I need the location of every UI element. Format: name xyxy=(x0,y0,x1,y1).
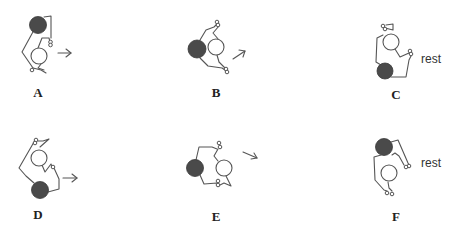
hand-icon xyxy=(383,27,387,31)
panel-e-arrow-down-right-icon xyxy=(243,152,257,159)
panel-label-b: B xyxy=(212,86,221,99)
hand-icon xyxy=(409,52,413,56)
panel-label-a: A xyxy=(33,86,42,99)
panel-d-figure xyxy=(19,138,59,198)
panel-c-figure xyxy=(376,24,413,79)
hand-icon xyxy=(218,145,222,149)
panel-b-figure xyxy=(188,20,229,74)
lead-dancer-dark-icon xyxy=(30,17,47,34)
panel-d-arrow-right-icon xyxy=(63,174,77,182)
follow-dancer-light-icon xyxy=(31,150,47,166)
hand-icon xyxy=(217,141,221,145)
hand-icon xyxy=(51,165,55,169)
lead-dancer-dark-icon xyxy=(32,182,49,199)
follow-dancer-light-icon xyxy=(208,39,224,55)
hand-icon xyxy=(216,183,220,187)
hand-icon xyxy=(49,43,53,47)
hand-icon xyxy=(385,191,389,195)
panel-label-d: D xyxy=(33,208,42,221)
lead-dancer-dark-icon xyxy=(188,40,206,58)
panel-a-arrow-right-icon xyxy=(58,49,71,57)
follow-dancer-light-icon xyxy=(381,165,397,181)
panel-f-figure xyxy=(374,139,411,196)
panel-c-rest-annotation: rest xyxy=(421,53,441,65)
panel-f-rest-annotation: rest xyxy=(421,157,441,169)
panel-a-figure xyxy=(22,16,52,73)
hand-icon xyxy=(225,70,229,74)
panel-e-figure xyxy=(187,141,233,187)
panel-label-c: C xyxy=(391,88,400,101)
hand-icon xyxy=(216,23,220,27)
dance-steps-diagram xyxy=(0,0,468,232)
follow-dancer-light-icon xyxy=(31,48,47,64)
hand-icon xyxy=(33,141,37,145)
hand-icon xyxy=(216,179,220,183)
lead-dancer-dark-icon xyxy=(377,63,393,79)
lead-dancer-dark-icon xyxy=(376,139,393,156)
panel-b-arrow-up-right-icon xyxy=(233,50,245,59)
lead-dancer-dark-icon xyxy=(187,160,204,177)
hand-icon xyxy=(30,68,34,72)
follow-dancer-light-icon xyxy=(383,34,399,50)
panel-label-f: F xyxy=(392,210,400,223)
hand-icon xyxy=(404,165,408,169)
hand-icon xyxy=(390,192,394,196)
panel-label-e: E xyxy=(212,210,221,223)
follow-dancer-light-icon xyxy=(216,160,232,176)
